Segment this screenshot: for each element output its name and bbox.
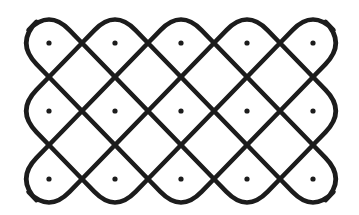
loop-segment (26, 77, 82, 145)
loop-segment (280, 145, 336, 202)
grid-dot (178, 176, 183, 181)
loop-segment (280, 77, 336, 145)
grid-dot (310, 108, 315, 113)
loop-segment (82, 145, 148, 202)
loop-segment (280, 20, 336, 77)
grid-dot (178, 40, 183, 45)
grid-dot (112, 40, 117, 45)
grid-dot (310, 176, 315, 181)
loop-segment (214, 20, 280, 77)
grid-dot (244, 40, 249, 45)
loop-segment (148, 145, 214, 202)
grid-dot (244, 108, 249, 113)
kolam-pattern-diagram (0, 0, 359, 215)
grid-dot (310, 40, 315, 45)
grid-dot (46, 40, 51, 45)
loop-segment (82, 20, 148, 77)
grid-dot (112, 176, 117, 181)
loop-segment (148, 20, 214, 77)
grid-dot (244, 176, 249, 181)
grid-dot (178, 108, 183, 113)
grid-dot (112, 108, 117, 113)
grid-dot (46, 108, 51, 113)
loop-segment (26, 20, 82, 77)
grid-dots (46, 40, 315, 181)
loop-segment (214, 145, 280, 202)
loop-segment (26, 145, 82, 202)
grid-dot (46, 176, 51, 181)
